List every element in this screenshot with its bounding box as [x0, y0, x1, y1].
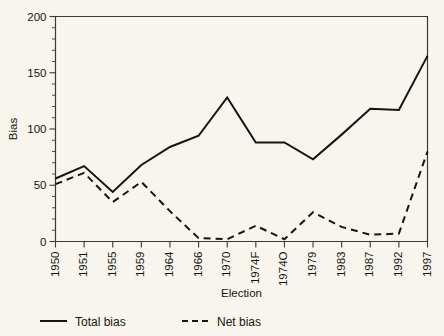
x-tick-label: 1964	[163, 251, 175, 277]
x-tick-label: 1959	[134, 252, 146, 278]
x-tick-label: 1970	[220, 252, 232, 278]
x-tick-group: 19501951195519591964196619701974F1974O19…	[49, 242, 433, 287]
x-tick-label: 1950	[49, 252, 61, 278]
x-tick-label: 1979	[306, 252, 318, 278]
series-group	[56, 56, 428, 239]
x-tick-label: 1997	[421, 252, 433, 278]
x-tick-label: 1951	[77, 252, 89, 278]
x-tick-label: 1955	[106, 252, 118, 278]
y-tick-label: 150	[27, 67, 46, 79]
x-tick-label: 1983	[335, 252, 347, 278]
axes-group	[56, 17, 428, 242]
x-axis-label: Election	[221, 287, 262, 299]
x-tick-label: 1966	[192, 252, 204, 278]
plot-frame	[56, 17, 428, 242]
x-tick-label: 1987	[363, 252, 375, 278]
x-tick-label: 1974F	[249, 251, 261, 284]
chart-container: 050100150200 195019511955195919641966197…	[0, 0, 444, 336]
y-tick-label: 100	[27, 123, 46, 135]
x-tick-label: 1974O	[277, 251, 289, 286]
y-tick-label: 200	[27, 11, 46, 23]
y-axis-label: Bias	[7, 118, 19, 141]
legend-group: Total biasNet bias	[40, 315, 261, 329]
series-net-bias	[56, 152, 428, 240]
y-tick-label: 0	[40, 236, 46, 248]
y-tick-group: 050100150200	[27, 11, 55, 248]
legend-label-total-bias: Total bias	[75, 315, 126, 329]
series-total-bias	[56, 56, 428, 192]
x-tick-label: 1992	[392, 252, 404, 278]
legend-label-net-bias: Net bias	[217, 315, 261, 329]
y-tick-label: 50	[34, 179, 47, 191]
line-chart: 050100150200 195019511955195919641966197…	[0, 0, 444, 336]
